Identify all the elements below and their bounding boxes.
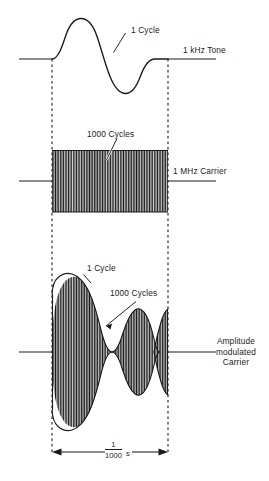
waveform-canvas [0, 0, 269, 481]
carrier-cycles-label: 1000 Cycles [87, 129, 134, 140]
tone-annotation-leader [114, 33, 126, 53]
period-denominator: 1000 [105, 450, 122, 460]
tone-cycle-label: 1 Cycle [131, 25, 160, 36]
carrier-right-label: 1 MHz Carrier [173, 166, 227, 177]
period-arrow-right-head [159, 449, 169, 456]
period-fraction: 1 1000 [105, 440, 122, 460]
am-cycle-label: 1 Cycle [87, 263, 116, 274]
tone-right-label: 1 kHz Tone [183, 45, 226, 56]
am-right-label-line-3: Carrier [223, 357, 249, 367]
period-arrow-left-head [52, 449, 62, 456]
am-right-label-line-1: Amplitude [217, 336, 255, 346]
carrier-burst-texture [52, 151, 168, 213]
am-right-label: Amplitude modulated Carrier [205, 336, 267, 368]
am-cycles-label: 1000 Cycles [110, 288, 157, 299]
tone-panel [19, 19, 216, 94]
period-unit: s [126, 449, 130, 458]
period-numerator: 1 [105, 440, 122, 450]
am-right-label-line-2: modulated [216, 347, 256, 357]
am-cycle-leader [84, 275, 92, 284]
am-modulation-figure: 1 Cycle 1 kHz Tone 1000 Cycles 1 MHz Car… [0, 0, 269, 481]
